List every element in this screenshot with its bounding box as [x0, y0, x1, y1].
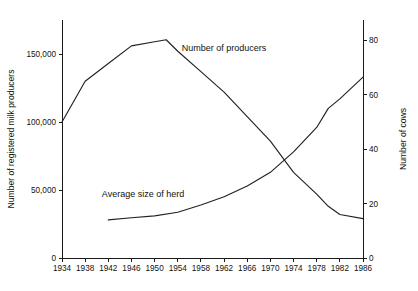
x-tick-label: 1982: [331, 264, 350, 273]
x-tick-label: 1958: [192, 264, 211, 273]
y-tick-label-right: 60: [369, 91, 379, 100]
y-tick-label-left: 50,000: [31, 186, 56, 195]
axes-group: [62, 20, 363, 258]
x-tick-label: 1934: [53, 264, 72, 273]
x-tick-label: 1962: [215, 264, 234, 273]
y-tick-label-left: 100,000: [26, 118, 56, 127]
x-tick-label: 1974: [284, 264, 303, 273]
y-tick-label-right: 0: [369, 254, 374, 263]
x-tick-label: 1954: [169, 264, 188, 273]
y-tick-label-left: 0: [51, 254, 56, 263]
series-annotation-producers: Number of producers: [182, 43, 267, 53]
series-annotation-herd: Average size of herd: [102, 189, 184, 199]
y-tick-label-right: 40: [369, 145, 379, 154]
x-tick-label: 1950: [146, 264, 165, 273]
y-tick-label-right: 80: [369, 36, 379, 45]
x-tick-label: 1946: [122, 264, 141, 273]
x-tick-label: 1978: [308, 264, 327, 273]
x-tick-label: 1986: [354, 264, 373, 273]
y-tick-label-right: 20: [369, 200, 379, 209]
y-tick-label-left: 150,000: [26, 50, 56, 59]
x-tick-label: 1970: [261, 264, 280, 273]
y-axis-left-title: Number of registered milk producers: [6, 70, 16, 209]
chart-plot-area: 1934193819421946195019541958196219661970…: [0, 0, 418, 291]
y-axis-right-title: Number of cows: [398, 108, 408, 170]
chart-container: 1934193819421946195019541958196219661970…: [0, 0, 418, 291]
label-group: Number of producersAverage size of herdN…: [6, 43, 408, 208]
tick-group: 1934193819421946195019541958196219661970…: [26, 36, 378, 273]
x-tick-label: 1942: [99, 264, 118, 273]
x-tick-label: 1938: [76, 264, 95, 273]
x-tick-label: 1966: [238, 264, 257, 273]
